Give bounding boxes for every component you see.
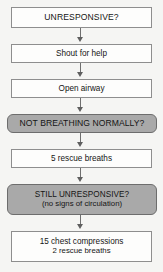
arrowhead-still-unresponsive-to-cpr [77, 224, 83, 229]
flow-node-shout-for-help-label: Shout for help [56, 49, 107, 58]
resuscitation-flowchart: UNRESPONSIVE? Shout for help Open airway… [0, 0, 163, 272]
arrowhead-not-breathing-to-breaths [77, 142, 83, 147]
flow-node-still-unresponsive-label: STILL UNRESPONSIVE? [35, 190, 129, 199]
arrowhead-shout-to-airway [77, 72, 83, 77]
arrowhead-unresponsive-to-shout [77, 37, 83, 42]
flow-node-unresponsive-label: UNRESPONSIVE? [44, 13, 118, 23]
flow-node-compressions-label: 15 chest compressions [40, 237, 124, 246]
flow-node-not-breathing-normally-label: NOT BREATHING NORMALLY? [20, 119, 145, 129]
flow-node-not-breathing-normally[interactable]: NOT BREATHING NORMALLY? [7, 114, 157, 133]
flow-node-five-rescue-breaths-label: 5 rescue breaths [51, 154, 112, 163]
flow-node-unresponsive[interactable]: UNRESPONSIVE? [11, 7, 152, 28]
flow-node-shout-for-help[interactable]: Shout for help [11, 44, 152, 63]
flow-node-compressions-and-breaths[interactable]: 15 chest compressions 2 rescue breaths [11, 231, 152, 262]
flow-node-still-unresponsive[interactable]: STILL UNRESPONSIVE? (no signs of circula… [7, 184, 157, 215]
arrowhead-airway-to-not-breathing [77, 107, 83, 112]
arrowhead-breaths-to-still-unresponsive [77, 177, 83, 182]
flow-node-still-unresponsive-sublabel: (no signs of circulation) [42, 200, 122, 209]
flow-node-compressions-sublabel: 2 rescue breaths [52, 247, 110, 256]
flow-node-five-rescue-breaths[interactable]: 5 rescue breaths [11, 149, 152, 168]
flow-node-open-airway[interactable]: Open airway [11, 79, 152, 98]
flow-node-open-airway-label: Open airway [59, 84, 105, 93]
